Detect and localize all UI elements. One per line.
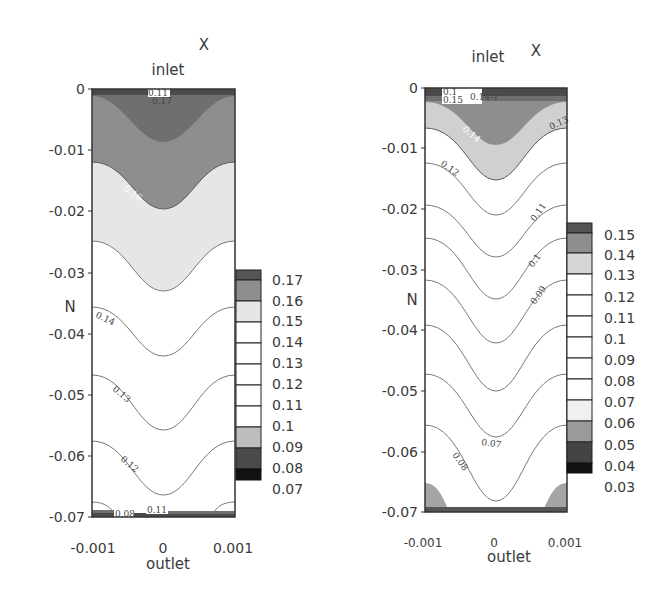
x-axis-label: X <box>199 36 209 54</box>
legend-label: 0.15 <box>272 313 303 329</box>
legend-label: 0.09 <box>272 439 303 455</box>
x-tick-label: 0 <box>159 540 168 556</box>
x-axis-label: X <box>531 42 541 60</box>
left-colorbar: 0.17 0.16 0.15 0.14 0.13 0.12 0.11 0.1 0… <box>236 270 303 497</box>
y-axis: 0 -0.01 -0.02 -0.03 -0.04 -0.05 -0.06 -0… <box>49 81 92 525</box>
y-axis-label: N <box>64 298 75 316</box>
legend-label: 0.08 <box>604 373 635 389</box>
y-tick-label: -0.03 <box>382 262 418 278</box>
y-tick-label: 0 <box>76 81 85 97</box>
legend-label: 0.09 <box>604 352 635 368</box>
x-tick-label: -0.001 <box>70 540 115 556</box>
y-axis-label: N <box>406 291 417 309</box>
y-tick-label: -0.01 <box>382 140 418 156</box>
y-tick-label: -0.02 <box>382 201 418 217</box>
y-axis: 0 -0.01 -0.02 -0.03 -0.04 -0.05 -0.06 -0… <box>382 80 425 520</box>
y-tick-label: 0 <box>409 80 418 96</box>
legend-label: 0.07 <box>604 394 635 410</box>
y-tick-label: -0.05 <box>382 383 418 399</box>
contour-label: 0.15 <box>443 95 463 105</box>
legend-label: 0.1 <box>272 418 294 434</box>
legend-label: 0.14 <box>604 247 635 263</box>
legend-label: 0.16 <box>272 293 303 309</box>
y-tick-label: -0.04 <box>382 322 418 338</box>
y-tick-label: -0.03 <box>49 265 85 281</box>
legend-label: 0.15 <box>604 227 635 243</box>
legend-label: 0.12 <box>272 376 303 392</box>
x-tick-label: -0.001 <box>404 536 443 550</box>
x-tick-label: 0.001 <box>548 536 582 550</box>
contour-label: 0.17 <box>152 96 172 106</box>
left-contour-plot: 0.11 0.17 0.16 0.14 0.13 0.12 0.08 0.11 … <box>49 36 303 573</box>
legend-label: 0.1 <box>604 331 626 347</box>
y-tick-label: -0.04 <box>49 326 85 342</box>
legend-label: 0.13 <box>604 267 635 283</box>
y-tick-label: -0.01 <box>49 142 85 158</box>
legend-label: 0.08 <box>272 460 303 476</box>
y-tick-label: -0.05 <box>49 387 85 403</box>
right-contour-plot: 0.1 0.15 0.14-1 0.14 0.13 0.12 0.11 0.1 … <box>382 42 635 566</box>
contour-label: 0.14-1 <box>470 92 499 102</box>
legend-label: 0.06 <box>604 415 635 431</box>
y-tick-label: -0.02 <box>49 203 85 219</box>
outlet-label: outlet <box>487 548 531 566</box>
x-axis: -0.001 0 0.001 outlet <box>70 540 253 573</box>
legend-label: 0.05 <box>604 437 635 453</box>
legend-label: 0.03 <box>604 479 635 495</box>
legend-label: 0.12 <box>604 289 635 305</box>
legend-label: 0.11 <box>272 397 303 413</box>
y-tick-label: -0.07 <box>382 504 418 520</box>
legend-label: 0.14 <box>272 334 303 350</box>
y-tick-label: -0.06 <box>49 448 85 464</box>
contour-figure: 0.11 0.17 0.16 0.14 0.13 0.12 0.08 0.11 … <box>0 0 670 597</box>
inlet-label: inlet <box>152 61 185 79</box>
inlet-label: inlet <box>472 48 505 66</box>
outlet-label: outlet <box>146 555 190 573</box>
x-axis: -0.001 0 0.001 outlet <box>404 536 583 566</box>
legend-label: 0.04 <box>604 458 635 474</box>
legend-label: 0.17 <box>272 272 303 288</box>
y-tick-label: -0.07 <box>49 509 85 525</box>
contour-label: 0.11 <box>147 505 167 515</box>
legend-label: 0.07 <box>272 481 303 497</box>
right-colorbar: 0.15 0.14 0.13 0.12 0.11 0.1 0.09 0.08 0… <box>567 223 635 495</box>
legend-label: 0.11 <box>604 310 635 326</box>
y-tick-label: -0.06 <box>382 444 418 460</box>
legend-label: 0.13 <box>272 355 303 371</box>
x-tick-label: 0.001 <box>213 540 253 556</box>
